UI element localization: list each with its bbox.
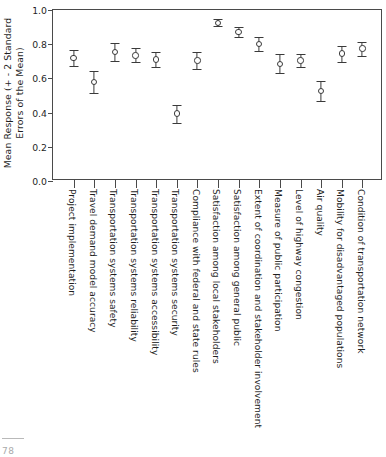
page-artifact-rule (2, 438, 24, 439)
error-bar-cap-upper (337, 46, 346, 47)
x-axis-category-label: Compliance with federal and state rules (191, 189, 200, 373)
error-bar-cap-lower (110, 61, 119, 62)
x-axis-category-label: Measure of public participation (273, 189, 282, 331)
data-point-marker (318, 88, 324, 94)
x-axis-category-labels: Project implementationTravel demand mode… (52, 189, 382, 429)
error-bar-cap-lower (131, 62, 140, 63)
x-axis-category-label: Extent of coordination and stakeholder i… (253, 189, 262, 428)
error-bar-cap-lower (358, 56, 367, 57)
y-axis-tick (48, 181, 53, 182)
x-axis-tick (362, 179, 363, 188)
error-bar-cap-upper (110, 43, 119, 44)
error-bar-cap-upper (317, 81, 326, 82)
data-point-marker (70, 55, 76, 61)
error-bar-cap-lower (172, 123, 181, 124)
x-axis-category-label: Air quality (314, 189, 323, 236)
x-axis-tick (177, 179, 178, 188)
x-axis-tick (115, 179, 116, 188)
error-bar-cap-lower (337, 62, 346, 63)
data-point-marker (277, 61, 283, 67)
data-point-marker (132, 52, 138, 58)
x-axis-category-label: Condition of transportation network (356, 189, 365, 354)
y-axis-tick-label: 1.0 (32, 5, 47, 16)
y-axis-tick-label: 0.2 (32, 141, 47, 152)
y-axis-tick (48, 44, 53, 45)
y-axis-title: Mean Response (+ - 2 Standard Errors of … (0, 8, 26, 178)
error-bar-cap-upper (152, 52, 161, 53)
error-bar-cap-upper (90, 71, 99, 72)
x-axis-tick (94, 179, 95, 188)
y-axis-tick-label: 0.6 (32, 73, 47, 84)
error-bar-cap-lower (90, 93, 99, 94)
x-axis-tick (342, 179, 343, 188)
data-point-marker (215, 20, 221, 26)
plot-area: 0.00.20.40.60.81.0 (52, 9, 382, 180)
data-point-marker (297, 57, 303, 63)
y-axis-title-line2: Errors of the Mean) (13, 18, 25, 169)
data-point-marker (194, 57, 200, 63)
x-axis-tick (239, 179, 240, 188)
error-bar-cap-lower (317, 101, 326, 102)
error-bar-cap-upper (358, 42, 367, 43)
error-bar-cap-upper (172, 105, 181, 106)
data-point-marker (174, 110, 180, 116)
data-point-marker (235, 29, 241, 35)
error-bar-cap-upper (131, 48, 140, 49)
error-bar-cap-lower (193, 69, 202, 70)
x-axis-tick (74, 179, 75, 188)
error-bar-cap-lower (69, 66, 78, 67)
error-bar-cap-lower (275, 73, 284, 74)
plot-inner: 0.00.20.40.60.81.0 (53, 10, 381, 179)
error-bar-cap-lower (234, 37, 243, 38)
x-axis-tick (301, 179, 302, 188)
error-bar-cap-upper (296, 54, 305, 55)
error-bar-cap-upper (255, 37, 264, 38)
error-bar-cap-upper (234, 27, 243, 28)
x-axis-tick (321, 179, 322, 188)
y-axis-tick-label: 0.8 (32, 39, 47, 50)
x-axis-category-label: Transportation systems security (170, 189, 179, 336)
x-axis-category-label: Mobility for disadvantaged populations (335, 189, 344, 368)
error-bar-cap-lower (255, 51, 264, 52)
data-point-marker (256, 41, 262, 47)
x-axis-tick (156, 179, 157, 188)
data-point-marker (91, 79, 97, 85)
x-axis-category-label: Satisfaction among general public (232, 189, 241, 346)
error-bar-cap-upper (193, 52, 202, 53)
x-axis-tick (197, 179, 198, 188)
y-axis-tick (48, 113, 53, 114)
x-axis-category-label: Level of highway congestion (294, 189, 303, 320)
x-axis-tick (259, 179, 260, 188)
error-bar-cap-upper (69, 50, 78, 51)
x-axis-category-label: Transportation systems reliability (129, 189, 138, 342)
data-point-marker (359, 45, 365, 51)
y-axis-title-line1: Mean Response (+ - 2 Standard (2, 18, 13, 169)
x-axis-category-label: Transportation systems accessibility (149, 189, 158, 355)
x-axis-tick (280, 179, 281, 188)
error-bar-cap-lower (152, 67, 161, 68)
y-axis-tick (48, 147, 53, 148)
error-bar-cap-lower (296, 67, 305, 68)
y-axis-tick (48, 78, 53, 79)
x-axis-category-label: Project implementation (67, 189, 76, 296)
x-axis-category-label: Transportation systems safety (108, 189, 117, 328)
y-axis-tick (48, 10, 53, 11)
x-axis-category-label: Travel demand model accuracy (88, 189, 97, 333)
error-bar-cap-upper (275, 54, 284, 55)
data-point-marker (112, 49, 118, 55)
y-axis-tick-label: 0.4 (32, 107, 47, 118)
figure-root: Mean Response (+ - 2 Standard Errors of … (0, 0, 386, 457)
page-artifact-number: 78 (2, 446, 14, 456)
x-axis-tick (218, 179, 219, 188)
error-bar-cap-lower (214, 26, 223, 27)
data-point-marker (153, 56, 159, 62)
data-point-marker (339, 50, 345, 56)
x-axis-category-label: Satisfaction among local stakeholders (211, 189, 220, 364)
y-axis-tick-label: 0.0 (32, 176, 47, 187)
x-axis-tick (136, 179, 137, 188)
